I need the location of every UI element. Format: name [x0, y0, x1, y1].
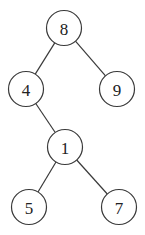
edge-1-5 [38, 162, 56, 192]
node-1: 1 [48, 130, 83, 165]
node-layer: 8 4 9 1 5 7 [9, 11, 137, 225]
edge-8-4 [35, 43, 54, 74]
node-label: 9 [113, 81, 122, 100]
node-label: 1 [61, 139, 70, 158]
node-label: 8 [60, 20, 69, 39]
node-4: 4 [9, 72, 44, 107]
node-label: 5 [25, 199, 34, 218]
node-label: 4 [22, 81, 31, 100]
edge-4-1 [36, 104, 55, 133]
node-8: 8 [47, 11, 82, 46]
node-7: 7 [102, 190, 137, 225]
tree-canvas: 8 4 9 1 5 7 [0, 0, 145, 235]
edge-layer [35, 41, 107, 194]
node-5: 5 [12, 190, 47, 225]
tree-diagram: 8 4 9 1 5 7 [0, 0, 145, 235]
edge-8-9 [75, 41, 105, 76]
node-9: 9 [100, 72, 135, 107]
edge-1-7 [77, 160, 108, 194]
node-label: 7 [115, 199, 124, 218]
